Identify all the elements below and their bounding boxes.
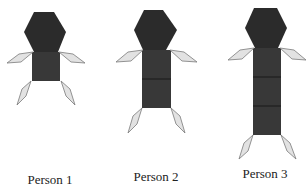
person-3-left-arm bbox=[228, 48, 254, 60]
person-3-right-arm bbox=[280, 48, 306, 60]
person-3-body-square-1 bbox=[253, 48, 281, 77]
person-3-body-square-3 bbox=[253, 106, 281, 135]
person-3-label: Person 3 bbox=[242, 166, 287, 182]
person-3-right-leg bbox=[281, 135, 296, 159]
person-2-left-arm bbox=[116, 50, 143, 62]
person-1-body-square-1 bbox=[32, 52, 60, 81]
person-1-right-leg bbox=[61, 81, 75, 105]
person-1-left-leg bbox=[17, 81, 31, 105]
person-3-figure bbox=[228, 8, 306, 159]
person-1-figure bbox=[7, 12, 85, 105]
person-1-head-hexagon bbox=[24, 12, 66, 52]
person-2-head-hexagon bbox=[134, 10, 177, 50]
person-3-body-square-2 bbox=[253, 77, 281, 106]
person-3-head-hexagon bbox=[245, 8, 287, 48]
person-2-body-square-1 bbox=[142, 50, 171, 79]
pattern-figures bbox=[0, 0, 307, 186]
person-2-right-leg bbox=[171, 108, 185, 133]
person-2-body-square-2 bbox=[142, 79, 171, 108]
person-2-left-leg bbox=[128, 108, 142, 133]
person-1-label: Person 1 bbox=[27, 172, 72, 186]
person-3-left-leg bbox=[239, 135, 253, 159]
person-1-right-arm bbox=[59, 52, 85, 63]
person-2-right-arm bbox=[170, 50, 197, 62]
person-1-left-arm bbox=[7, 52, 33, 63]
person-2-figure bbox=[116, 10, 197, 133]
person-2-label: Person 2 bbox=[133, 169, 178, 185]
